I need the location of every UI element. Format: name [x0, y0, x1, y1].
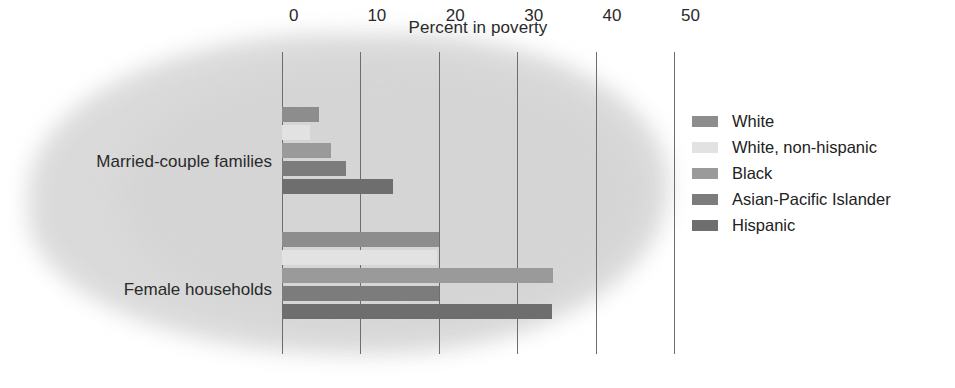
- x-tick-label-50: 50: [681, 6, 700, 26]
- legend-label: Hispanic: [732, 216, 795, 235]
- legend-swatch-icon: [692, 220, 718, 231]
- x-tick-label-40: 40: [603, 6, 622, 26]
- bar-black-group-1: [282, 143, 331, 158]
- chart-canvas: Percent in poverty 01020304050 Married-c…: [0, 0, 955, 388]
- bar-asian-pacific-islander-group-1: [282, 161, 346, 176]
- legend-item-white: White: [692, 108, 947, 134]
- legend-label: Asian-Pacific Islander: [732, 190, 891, 209]
- bar-hispanic-group-2: [282, 304, 552, 319]
- legend-item-white-non-hispanic: White, non-hispanic: [692, 134, 947, 160]
- gridline-40: [596, 52, 597, 354]
- bar-white-non-hispanic-group-1: [282, 125, 310, 140]
- bar-asian-pacific-islander-group-2: [282, 286, 439, 301]
- legend-label: White, non-hispanic: [732, 138, 877, 157]
- bar-white-group-2: [282, 232, 439, 247]
- legend-label: White: [732, 112, 774, 131]
- legend-swatch-icon: [692, 168, 718, 179]
- legend-item-black: Black: [692, 160, 947, 186]
- gridline-50: [674, 52, 675, 354]
- plot-area: 01020304050: [282, 52, 674, 354]
- bar-hispanic-group-1: [282, 179, 393, 194]
- bar-white-non-hispanic-group-2: [282, 250, 437, 265]
- bar-white-group-1: [282, 107, 319, 122]
- x-tick-label-20: 20: [446, 6, 465, 26]
- x-tick-label-10: 10: [367, 6, 386, 26]
- x-tick-label-30: 30: [524, 6, 543, 26]
- category-label-female-households: Female households: [124, 280, 272, 300]
- chart-legend: WhiteWhite, non-hispanicBlackAsian-Pacif…: [692, 108, 947, 238]
- legend-swatch-icon: [692, 142, 718, 153]
- legend-item-asian-pacific-islander: Asian-Pacific Islander: [692, 186, 947, 212]
- x-tick-label-0: 0: [289, 6, 298, 26]
- category-label-married-couple-families: Married-couple families: [96, 152, 272, 172]
- bar-black-group-2: [282, 268, 553, 283]
- legend-swatch-icon: [692, 116, 718, 127]
- legend-swatch-icon: [692, 194, 718, 205]
- legend-label: Black: [732, 164, 772, 183]
- legend-item-hispanic: Hispanic: [692, 212, 947, 238]
